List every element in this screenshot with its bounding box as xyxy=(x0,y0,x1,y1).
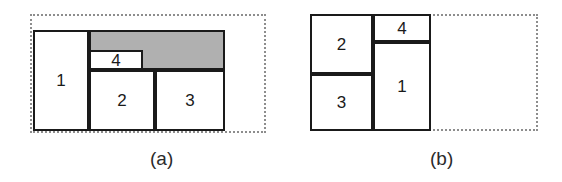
panel-a-cell-4-label: 4 xyxy=(111,52,120,69)
panel-a-cell-1-label: 1 xyxy=(56,72,65,89)
panel-b-cell-4: 4 xyxy=(373,14,431,42)
panel-a-cell-2-label: 2 xyxy=(117,92,126,109)
panel-a-cell-4: 4 xyxy=(89,50,143,70)
panel-b-cell-1-label: 1 xyxy=(397,78,406,95)
panel-a-cell-3-label: 3 xyxy=(185,92,194,109)
packing-figure: 1423(a)2341(b) xyxy=(0,0,562,182)
panel-a-cell-3: 3 xyxy=(155,70,225,131)
panel-b-cell-1: 1 xyxy=(373,42,431,131)
panel-b-cell-2-label: 2 xyxy=(337,36,346,53)
panel-b-cell-3: 3 xyxy=(310,74,373,131)
panel-a-cell-1: 1 xyxy=(33,30,89,131)
panel-b-cell-2: 2 xyxy=(310,14,373,74)
panel-b-caption: (b) xyxy=(0,148,562,170)
panel-a-cell-2: 2 xyxy=(89,70,155,131)
panel-b-cell-3-label: 3 xyxy=(337,94,346,111)
panel-b-cell-4-label: 4 xyxy=(397,20,406,37)
